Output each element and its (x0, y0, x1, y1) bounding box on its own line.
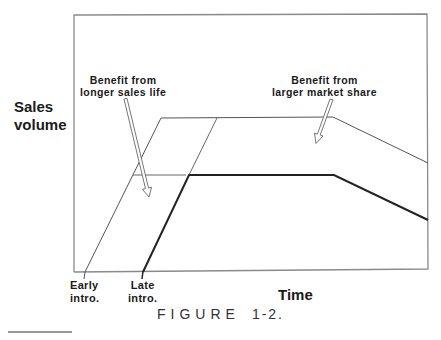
annotation-longer-sales-life: Benefit from longer sales life (80, 74, 166, 98)
late-intro-tick (142, 271, 143, 279)
x-tick-late-line2: intro. (128, 292, 157, 305)
caption-word: FIGURE (157, 306, 240, 322)
x-axis-label: Time (278, 286, 313, 303)
x-tick-late-line1: Late (128, 279, 157, 292)
y-axis-label: Sales volume (14, 98, 67, 134)
x-tick-late-intro: Late intro. (128, 279, 157, 304)
plot-frame (74, 14, 428, 272)
x-tick-early-line1: Early (70, 279, 99, 292)
annotation-larger-market-share: Benefit from larger market share (272, 74, 377, 98)
annotation-left-line1: Benefit from (80, 74, 166, 86)
figure-caption: FIGURE1-2. (0, 306, 441, 322)
late-higher-share-line (188, 118, 217, 177)
x-tick-early-line2: intro. (70, 292, 99, 305)
annotation-right-line1: Benefit from (272, 74, 377, 86)
larger-market-share-arrow (315, 99, 334, 144)
y-axis-label-line2: volume (14, 116, 67, 134)
caption-number: 1-2. (252, 306, 284, 322)
longer-sales-life-arrow (124, 98, 152, 197)
chart-canvas (0, 0, 441, 340)
annotation-right-line2: larger market share (272, 86, 377, 98)
y-axis-label-line1: Sales (14, 98, 67, 116)
annotation-left-line2: longer sales life (80, 86, 166, 98)
late-intro-curve (143, 175, 428, 272)
early-intro-tick (84, 272, 85, 279)
x-tick-early-intro: Early intro. (70, 279, 99, 304)
